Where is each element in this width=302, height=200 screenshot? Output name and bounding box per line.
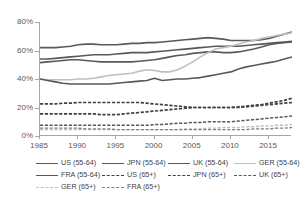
legend-swatch — [234, 163, 256, 164]
x-axis-tick-label: 2010 — [216, 141, 244, 150]
legend-label: UK (65+) — [259, 171, 288, 179]
series-line — [40, 41, 292, 59]
legend-item[interactable]: FRA (55-64) — [36, 171, 102, 179]
legend-item[interactable]: US (65+) — [102, 171, 168, 179]
x-axis-tick-label: 1990 — [63, 141, 91, 150]
legend-label: FRA (65+) — [127, 183, 160, 191]
legend-swatch — [102, 175, 124, 176]
series-line — [40, 98, 292, 107]
employment-rate-line-chart: 80%60%40%20%0% 1985199019952000200520102… — [0, 0, 302, 200]
legend-swatch — [102, 187, 124, 188]
y-axis-tick-label: 80% — [17, 18, 33, 26]
legend-item[interactable]: GER (55-64) — [234, 159, 302, 167]
legend-label: GER (55-64) — [259, 159, 300, 167]
legend-swatch — [36, 175, 58, 176]
y-axis-tick-label: 40% — [17, 75, 33, 83]
legend-item[interactable]: US (55-64) — [36, 159, 102, 167]
legend-row: GER (65+)FRA (65+) — [36, 181, 302, 193]
legend-item[interactable]: UK (65+) — [234, 171, 302, 179]
legend-swatch — [36, 187, 58, 188]
series-lines — [40, 22, 292, 136]
y-axis: 80%60%40%20%0% — [0, 0, 37, 160]
legend-label: UK (55-64) — [193, 159, 228, 167]
legend-item[interactable]: JPN (55-64) — [102, 159, 168, 167]
x-axis-tick — [268, 136, 269, 139]
series-line — [40, 57, 292, 84]
legend-label: US (65+) — [127, 171, 156, 179]
x-axis-tick-label: 1995 — [101, 141, 129, 150]
x-axis-tick-label: 1985 — [25, 141, 53, 150]
legend-label: JPN (65+) — [193, 171, 226, 179]
series-line — [40, 127, 292, 129]
y-axis-tick-label: 0% — [21, 132, 33, 140]
chart-legend: US (55-64)JPN (55-64)UK (55-64)GER (55-6… — [36, 157, 302, 193]
legend-item[interactable]: FRA (65+) — [102, 183, 168, 191]
x-axis-tick — [192, 136, 193, 139]
legend-label: GER (65+) — [61, 183, 96, 191]
x-axis-tick — [77, 136, 78, 139]
legend-label: FRA (55-64) — [61, 171, 100, 179]
x-axis-tick-label: 2015 — [254, 141, 282, 150]
legend-row: FRA (55-64)US (65+)JPN (65+)UK (65+) — [36, 169, 302, 181]
legend-swatch — [102, 163, 124, 164]
legend-item[interactable]: JPN (65+) — [168, 171, 234, 179]
legend-swatch — [36, 163, 58, 164]
legend-row: US (55-64)JPN (55-64)UK (55-64)GER (55-6… — [36, 157, 302, 169]
legend-swatch — [168, 163, 190, 164]
legend-swatch — [168, 175, 190, 176]
x-axis-tick — [39, 136, 40, 139]
x-axis-tick — [230, 136, 231, 139]
series-line — [40, 116, 292, 125]
plot-area — [39, 22, 291, 136]
legend-label: JPN (55-64) — [127, 159, 166, 167]
y-axis-tick-label: 60% — [17, 47, 33, 55]
legend-item[interactable]: GER (65+) — [36, 183, 102, 191]
x-axis-tick-label: 2000 — [140, 141, 168, 150]
x-axis-tick — [115, 136, 116, 139]
y-axis-tick-label: 20% — [17, 104, 33, 112]
legend-swatch — [234, 175, 256, 176]
legend-label: US (55-64) — [61, 159, 96, 167]
legend-item[interactable]: UK (55-64) — [168, 159, 234, 167]
x-axis-tick-label: 2005 — [178, 141, 206, 150]
x-axis-tick — [154, 136, 155, 139]
